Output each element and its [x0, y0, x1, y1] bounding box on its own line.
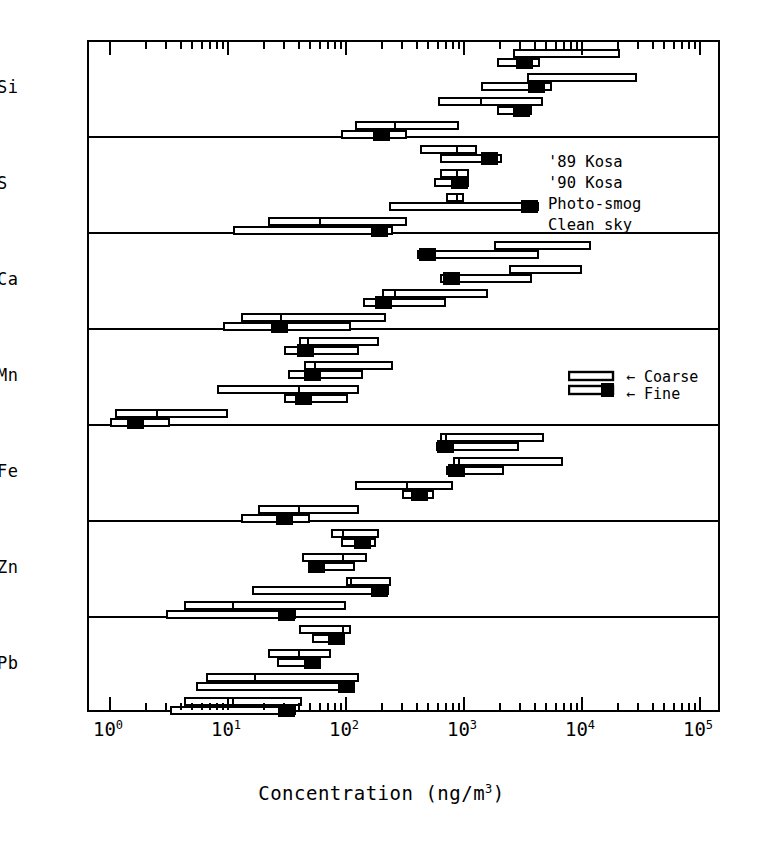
- fine-marker: [411, 488, 428, 501]
- fine-marker: [304, 368, 321, 381]
- x-tick-label: 101: [211, 718, 241, 740]
- axis-tick: [319, 703, 321, 710]
- coarse-range-bar: [440, 433, 545, 442]
- element-label-ca: Ca: [0, 269, 57, 289]
- fine-marker: [513, 104, 530, 117]
- coarse-median-tick: [232, 697, 234, 706]
- axis-tick: [109, 42, 111, 55]
- element-label-mn: Mn: [0, 365, 57, 385]
- fine-marker: [516, 56, 533, 69]
- axis-tick: [381, 703, 383, 710]
- fine-marker: [371, 584, 388, 597]
- axis-tick: [576, 42, 578, 49]
- legend-condition-item: Clean sky: [548, 215, 641, 236]
- axis-tick: [191, 42, 193, 49]
- axis-tick: [673, 42, 675, 49]
- legend-conditions: '89 Kosa'90 KosaPhoto-smogClean sky: [548, 152, 641, 236]
- axis-tick: [445, 703, 447, 710]
- axis-tick: [663, 42, 665, 49]
- axis-tick: [327, 703, 329, 710]
- axis-tick: [555, 703, 557, 710]
- axis-tick: [681, 703, 683, 710]
- axis-tick: [334, 703, 336, 710]
- element-label-zn: Zn: [0, 557, 57, 577]
- coarse-range-bar: [241, 313, 386, 322]
- axis-tick: [427, 703, 429, 710]
- fine-marker: [354, 536, 371, 549]
- fine-marker: [448, 464, 465, 477]
- coarse-median-tick: [342, 553, 344, 562]
- axis-tick: [180, 42, 182, 49]
- element-panel: [89, 618, 718, 714]
- axis-tick: [334, 42, 336, 49]
- coarse-range-bar: [494, 241, 591, 250]
- axis-tick: [652, 42, 654, 49]
- element-label-s: S: [0, 173, 57, 193]
- axis-tick: [652, 703, 654, 710]
- fine-marker: [328, 632, 345, 645]
- fine-marker: [437, 440, 454, 453]
- axis-tick: [458, 42, 460, 49]
- axis-tick: [555, 42, 557, 49]
- axis-tick: [581, 42, 583, 55]
- coarse-range-bar: [453, 457, 563, 466]
- fine-marker: [451, 176, 468, 189]
- axis-tick: [309, 703, 311, 710]
- fine-marker: [304, 656, 321, 669]
- fine-marker: [375, 296, 392, 309]
- axis-tick: [445, 42, 447, 49]
- fine-range-bar: [284, 346, 359, 355]
- legend-coarse-label: ← Coarse: [626, 369, 698, 386]
- axis-tick: [191, 703, 193, 710]
- coarse-fine-swatch-icon: [568, 370, 618, 404]
- axis-tick: [581, 697, 583, 710]
- coarse-median-tick: [156, 409, 158, 418]
- coarse-range-bar: [258, 505, 359, 514]
- coarse-range-bar: [206, 673, 360, 682]
- coarse-median-tick: [298, 649, 300, 658]
- coarse-range-bar: [184, 601, 346, 610]
- legend-condition-item: '90 Kosa: [548, 173, 641, 194]
- axis-tick: [216, 42, 218, 49]
- axis-tick: [381, 42, 383, 49]
- element-panel: [89, 234, 718, 330]
- axis-tick: [519, 42, 521, 49]
- coarse-median-tick: [406, 481, 408, 490]
- axis-tick: [576, 703, 578, 710]
- fine-range-bar: [196, 682, 355, 691]
- legend-condition-item: Photo-smog: [548, 194, 641, 215]
- axis-tick: [637, 42, 639, 49]
- fine-marker: [419, 248, 436, 261]
- axis-tick: [427, 42, 429, 49]
- coarse-range-bar: [509, 265, 582, 274]
- fine-marker: [297, 344, 314, 357]
- axis-tick: [165, 703, 167, 710]
- legend-condition-item: '89 Kosa: [548, 152, 641, 173]
- element-label-pb: Pb: [0, 653, 57, 673]
- fine-marker: [295, 392, 312, 405]
- axis-tick: [263, 42, 265, 49]
- axis-tick: [345, 697, 347, 710]
- coarse-median-tick: [456, 193, 458, 202]
- coarse-median-tick: [254, 673, 256, 682]
- axis-tick: [145, 42, 147, 49]
- coarse-range-bar: [382, 289, 489, 298]
- axis-tick: [617, 703, 619, 710]
- axis-tick: [283, 42, 285, 49]
- fine-marker: [338, 680, 355, 693]
- x-tick-label: 102: [329, 718, 359, 740]
- axis-tick: [201, 703, 203, 710]
- axis-tick: [201, 42, 203, 49]
- axis-tick: [401, 42, 403, 49]
- fine-marker: [481, 152, 498, 165]
- axis-tick: [283, 703, 285, 710]
- coarse-range-bar: [446, 193, 464, 202]
- coarse-median-tick: [319, 217, 321, 226]
- axis-tick: [309, 42, 311, 49]
- axis-tick: [263, 703, 265, 710]
- axis-tick: [401, 703, 403, 710]
- axis-tick: [563, 42, 565, 49]
- axis-tick: [345, 42, 347, 55]
- x-axis-title: Concentration (ng/m3): [0, 782, 763, 804]
- element-panel: [89, 522, 718, 618]
